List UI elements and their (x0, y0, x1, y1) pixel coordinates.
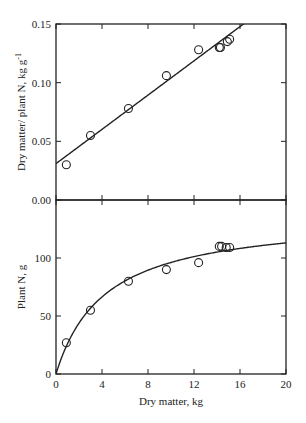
top-y-axis-label-superscript: -1 (14, 53, 23, 60)
x-tick-label: 12 (189, 378, 200, 390)
x-tick-label: 8 (145, 378, 151, 390)
x-axis-label: Dry matter, kg (139, 395, 204, 407)
x-tick-label: 0 (53, 378, 59, 390)
data-point (226, 35, 234, 43)
x-tick-label: 20 (281, 378, 293, 390)
figure: 0.000.050.100.15 048121620050100 Dry mat… (0, 0, 306, 423)
data-point (223, 38, 231, 46)
top-y-axis-label: Dry matter/ plant N, kg g-1 (14, 53, 27, 171)
x-tick-label: 16 (235, 378, 247, 390)
data-point (162, 266, 170, 274)
y-tick-label: 0.00 (32, 194, 52, 206)
x-tick-label: 4 (99, 378, 105, 390)
top-panel: 0.000.050.100.15 (32, 0, 286, 206)
y-tick-label: 0 (46, 368, 52, 380)
bottom-panel: 048121620050100 (35, 200, 293, 390)
bottom-y-axis-label: Plant N, g (15, 264, 27, 309)
data-point (124, 104, 132, 112)
fit-curve (56, 243, 286, 374)
plot-frame (56, 24, 286, 200)
y-tick-label: 0.05 (32, 135, 52, 147)
y-tick-label: 0.15 (32, 18, 52, 30)
y-tick-label: 0.10 (32, 77, 52, 89)
data-point (195, 46, 203, 54)
top-y-axis-label-text: Dry matter/ plant N, kg g (15, 59, 27, 171)
data-point (195, 259, 203, 267)
plot-frame (56, 200, 286, 374)
y-tick-label: 100 (35, 252, 52, 264)
data-point (62, 161, 70, 169)
data-point (162, 72, 170, 80)
y-tick-label: 50 (40, 310, 52, 322)
